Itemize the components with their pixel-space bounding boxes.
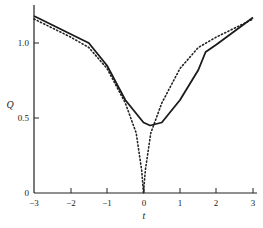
- x-tick-label: −3: [29, 198, 39, 208]
- y-tick-label: 0.5: [18, 113, 30, 123]
- y-axis-label: Q: [6, 99, 14, 110]
- dotted-curve: [34, 19, 253, 193]
- y-tick-label: 0: [25, 188, 30, 198]
- x-ticks: −3 −2 −1 0 1 2 3: [29, 188, 256, 208]
- plot-area: 0 0.5 1.0 −3 −2 −1 0 1 2 3 t Q: [0, 0, 263, 228]
- chart: 0 0.5 1.0 −3 −2 −1 0 1 2 3 t Q: [0, 0, 263, 228]
- x-tick-label: 1: [178, 198, 183, 208]
- x-tick-label: 0: [142, 198, 147, 208]
- x-tick-label: −1: [102, 198, 112, 208]
- solid-curve: [34, 16, 253, 126]
- x-tick-label: 2: [214, 198, 219, 208]
- x-tick-label: 3: [251, 198, 256, 208]
- x-tick-label: −2: [66, 198, 76, 208]
- y-tick-label: 1.0: [18, 38, 30, 48]
- x-axis-label: t: [143, 210, 146, 221]
- y-ticks: 0 0.5 1.0: [18, 38, 39, 198]
